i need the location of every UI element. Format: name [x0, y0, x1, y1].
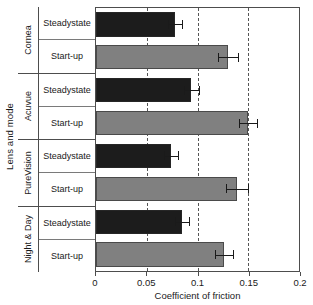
- x-tick: [300, 272, 301, 276]
- error-bar: [164, 156, 178, 157]
- x-tick-label: 0: [92, 277, 97, 288]
- y-axis-title: Lens and mode: [0, 0, 18, 272]
- error-cap-low: [175, 217, 176, 226]
- error-bar: [168, 24, 182, 25]
- group-label-text: Night & Day: [23, 215, 33, 263]
- bar-row: [96, 238, 299, 271]
- x-tick: [198, 272, 199, 276]
- group-label: Night & Day: [18, 206, 38, 273]
- mode-label: Steadystate: [39, 139, 95, 172]
- mode-label: Steadystate: [39, 73, 95, 106]
- bar-startup: [96, 45, 228, 69]
- error-cap-high: [189, 217, 190, 226]
- mode-label: Steadystate: [39, 206, 95, 239]
- bar-row: [96, 172, 299, 205]
- mode-label: Start-up: [39, 39, 95, 72]
- bar-startup: [96, 111, 248, 135]
- error-bar: [239, 123, 257, 124]
- bar-row: [96, 107, 299, 140]
- mode-label-text: Steady: [43, 218, 71, 228]
- mode-label: Start-up: [39, 106, 95, 139]
- group-label-column: CorneaAcuvuePureVisionNight & Day: [18, 7, 38, 272]
- mode-label-text-line2: state: [71, 218, 91, 228]
- error-cap-high: [238, 53, 239, 62]
- error-bar: [226, 189, 248, 190]
- bar-startup: [96, 242, 224, 266]
- x-tick: [249, 272, 250, 276]
- mode-label: Steadystate: [39, 7, 95, 39]
- bar-row: [96, 74, 299, 107]
- x-axis-tick-labels: 00.050.10.150.2: [95, 277, 300, 289]
- error-bar: [215, 255, 233, 256]
- group-label-text: Acuvue: [23, 91, 33, 121]
- error-cap-low: [239, 119, 240, 128]
- bar-steady: [96, 210, 182, 234]
- mode-label-text: Start-up: [51, 184, 83, 194]
- error-cap-high: [199, 86, 200, 95]
- mode-label-text-line2: state: [71, 85, 91, 95]
- mode-label-text-line2: state: [71, 151, 91, 161]
- group-label-text: Cornea: [23, 25, 33, 55]
- bar-rows: [96, 8, 299, 271]
- error-cap-low: [184, 86, 185, 95]
- plot-area: [95, 7, 300, 272]
- bar-row: [96, 41, 299, 74]
- x-tick-label: 0.15: [240, 277, 259, 288]
- mode-label: Start-up: [39, 239, 95, 272]
- error-cap-high: [233, 250, 234, 259]
- x-axis-title: Coefficient of friction: [95, 290, 300, 301]
- error-cap-low: [215, 250, 216, 259]
- error-cap-high: [248, 184, 249, 193]
- error-bar: [184, 90, 198, 91]
- error-cap-low: [226, 184, 227, 193]
- bar-startup: [96, 177, 237, 201]
- x-tick-label: 0.05: [137, 277, 156, 288]
- bar-steady: [96, 12, 175, 36]
- bar-steady: [96, 144, 171, 168]
- mode-label: Start-up: [39, 172, 95, 205]
- group-label: Acuvue: [18, 73, 38, 140]
- y-axis-title-text: Lens and mode: [4, 103, 15, 170]
- x-tick: [95, 272, 96, 276]
- error-bar: [218, 57, 238, 58]
- x-tick: [146, 272, 147, 276]
- friction-bar-chart: Lens and mode CorneaAcuvuePureVisionNigh…: [0, 0, 313, 305]
- group-label-text: PureVision: [23, 151, 33, 194]
- mode-label-text: Steady: [43, 151, 71, 161]
- error-bar: [175, 222, 189, 223]
- error-cap-low: [218, 53, 219, 62]
- group-label: Cornea: [18, 7, 38, 73]
- mode-label-column: SteadystateStart-upSteadystateStart-upSt…: [38, 7, 95, 272]
- error-cap-low: [164, 151, 165, 160]
- x-tick-label: 0.1: [191, 277, 204, 288]
- mode-label-text: Start-up: [51, 118, 83, 128]
- mode-label-text-line2: state: [71, 18, 91, 28]
- mode-label-text: Steady: [43, 85, 71, 95]
- mode-label-text: Steady: [43, 18, 71, 28]
- x-tick-label: 0.2: [293, 277, 306, 288]
- error-cap-high: [178, 151, 179, 160]
- error-cap-low: [168, 20, 169, 29]
- bar-row: [96, 140, 299, 173]
- bar-row: [96, 8, 299, 41]
- group-label: PureVision: [18, 139, 38, 206]
- error-cap-high: [182, 20, 183, 29]
- bar-steady: [96, 78, 191, 102]
- bar-row: [96, 205, 299, 238]
- mode-label-text: Start-up: [51, 51, 83, 61]
- mode-label-text: Start-up: [51, 251, 83, 261]
- error-cap-high: [257, 119, 258, 128]
